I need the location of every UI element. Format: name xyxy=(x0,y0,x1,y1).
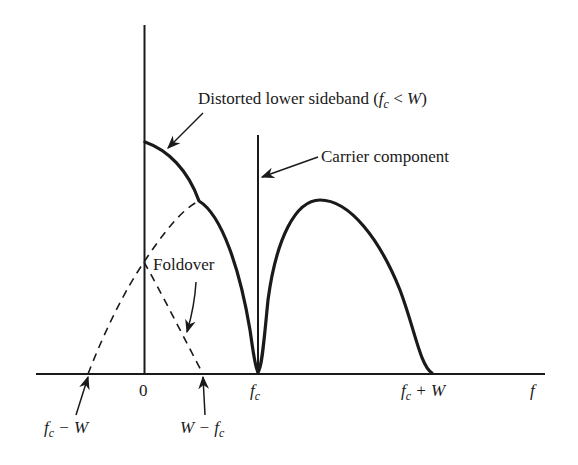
foldover-arrow xyxy=(187,282,196,332)
zero-label: 0 xyxy=(139,381,148,400)
foldover-label: Foldover xyxy=(153,255,215,274)
carrier-component-label: Carrier component xyxy=(321,147,449,166)
w-minus-fc-arrow xyxy=(203,377,205,415)
distorted-arrow xyxy=(168,113,203,148)
distorted-sideband-label: Distorted lower sideband (fc < W) xyxy=(198,89,427,111)
w-minus-fc-label: W − fc xyxy=(180,418,225,440)
f-axis-label: f xyxy=(530,381,537,400)
foldover-dashed-falling xyxy=(144,262,203,374)
spectrum-diagram: Distorted lower sideband (fc < W) Carrie… xyxy=(0,0,578,465)
fc-minus-w-label: fc − W xyxy=(44,418,90,440)
upper-sideband-curve xyxy=(258,200,432,373)
fc-minus-w-arrow xyxy=(76,377,88,415)
carrier-arrow xyxy=(262,157,318,177)
fc-label: fc xyxy=(250,381,261,403)
fc-plus-w-label: fc + W xyxy=(401,381,447,403)
